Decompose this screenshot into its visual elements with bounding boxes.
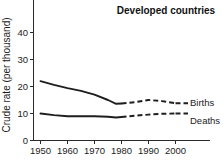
x-tick-label-1960: 1960 — [57, 145, 78, 156]
chart-figure: Crude rate (per thousand) Developed coun… — [0, 0, 224, 163]
series-group — [41, 81, 176, 117]
x-tick-label-1980: 1980 — [111, 145, 132, 156]
y-tick-label-0: 0 — [23, 135, 28, 146]
y-tick-label-20: 20 — [17, 81, 28, 92]
series-label-deaths: Deaths — [190, 115, 220, 126]
series-line-deaths-solid — [41, 114, 122, 118]
chart-title: Developed countries — [117, 5, 216, 16]
y-tick-label-30: 30 — [17, 54, 28, 65]
y-tick-label-10: 10 — [17, 108, 28, 119]
series-label-births: Births — [190, 97, 215, 108]
series-line-births-solid — [41, 81, 122, 104]
x-tick-label-1950: 1950 — [30, 145, 51, 156]
chart-canvas: Crude rate (per thousand) Developed coun… — [0, 0, 224, 163]
series-line-births-dashed — [122, 100, 176, 104]
x-tick-label-2000: 2000 — [165, 145, 186, 156]
y-axis-title: Crude rate (per thousand) — [1, 17, 12, 132]
y-tick-label-40: 40 — [17, 27, 28, 38]
x-tick-label-1990: 1990 — [138, 145, 159, 156]
series-line-deaths-dashed — [122, 114, 176, 118]
x-tick-label-1970: 1970 — [84, 145, 105, 156]
